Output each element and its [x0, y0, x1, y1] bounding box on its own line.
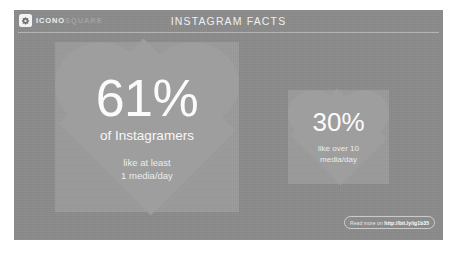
stat-secondary: 30% like over 10 media/day — [286, 108, 391, 165]
stat-secondary-percent: 30% — [286, 108, 391, 136]
card-header: ICONOSQUARE INSTAGRAM FACTS — [14, 10, 443, 33]
read-more-label: Read more on http://bit.ly/ig1b35 — [350, 220, 429, 226]
stat-secondary-sub-line-2: media/day — [286, 154, 391, 165]
stat-primary-sub: like at least 1 media/day — [55, 156, 239, 182]
stat-secondary-sub: like over 10 media/day — [286, 143, 391, 165]
header-divider — [18, 32, 439, 33]
read-more-url: http://bit.ly/ig1b35 — [384, 220, 429, 226]
stat-primary-percent: 61% — [55, 72, 239, 124]
read-more-button[interactable]: Read more on http://bit.ly/ig1b35 — [344, 216, 435, 229]
read-more-prefix: Read more on — [350, 220, 384, 226]
infographic-page: ICONOSQUARE INSTAGRAM FACTS 61% — [0, 0, 457, 257]
stat-primary-sub-line-2: 1 media/day — [55, 169, 239, 182]
stat-primary-sub-line-1: like at least — [55, 156, 239, 169]
stat-secondary-sub-line-1: like over 10 — [286, 143, 391, 154]
infographic-card: ICONOSQUARE INSTAGRAM FACTS 61% — [14, 10, 443, 240]
page-title: INSTAGRAM FACTS — [14, 15, 443, 27]
stat-primary-label: of Instagramers — [55, 128, 239, 144]
stat-primary: 61% of Instagramers like at least 1 medi… — [55, 72, 239, 182]
